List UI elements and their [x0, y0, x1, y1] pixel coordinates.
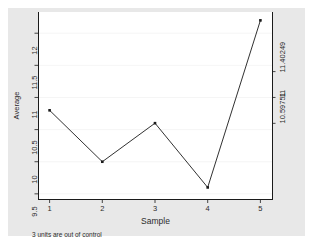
x-tick-label: 4 — [206, 204, 210, 213]
data-point-marker — [101, 160, 104, 163]
x-axis-line — [38, 199, 273, 200]
data-series-group — [48, 19, 261, 189]
average-markers-group — [48, 19, 261, 189]
data-point-marker — [206, 186, 209, 189]
data-point-marker — [48, 109, 51, 112]
y-tick-label: 12 — [30, 33, 39, 69]
chart-canvas — [0, 0, 313, 252]
x-tick-label: 1 — [48, 204, 52, 213]
x-tick-label: 5 — [258, 204, 262, 213]
data-point-marker — [259, 19, 262, 22]
out-of-control-note: 3 units are out of control — [32, 231, 102, 238]
x-tick-label: 3 — [153, 204, 157, 213]
y-axis-title: Average — [12, 75, 21, 135]
average-line — [50, 20, 261, 187]
right-tick-label: 11.40249 — [278, 41, 287, 72]
gridlines-group — [38, 33, 272, 194]
y-tick-label: 10.5 — [30, 129, 39, 165]
x-axis-title: Sample — [38, 216, 273, 226]
y-tick-label: 11.5 — [30, 65, 39, 101]
data-point-marker — [154, 122, 157, 125]
y-tick-label: 11 — [30, 97, 39, 133]
chart-figure: 9.51010.51111.512 12345 10.597511111.402… — [0, 0, 313, 252]
x-tick-label: 2 — [100, 204, 104, 213]
right-axis-line — [272, 12, 273, 200]
right-tick-label: 11 — [278, 90, 287, 98]
y-tick-label: 10 — [30, 161, 39, 197]
